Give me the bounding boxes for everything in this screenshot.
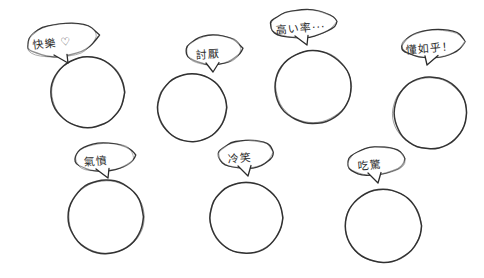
bubble-tail-sneer [238, 166, 251, 177]
face-circle-angry[interactable] [68, 180, 144, 254]
face-circle-surprised[interactable] [345, 189, 421, 262]
speech-bubble-whatever[interactable] [401, 27, 467, 60]
bubble-tail-surprised [368, 173, 381, 184]
speech-bubble-dislike[interactable] [185, 33, 243, 66]
drawing-canvas [0, 0, 484, 278]
speech-bubble-happy[interactable] [25, 19, 102, 61]
bubble-tail-expensive [295, 36, 308, 46]
face-circle-happy[interactable] [51, 57, 125, 128]
bubble-tail-happy [54, 55, 68, 64]
bubble-tail-whatever [425, 56, 438, 66]
face-circle-sneer[interactable] [210, 182, 283, 253]
speech-bubble-expensive[interactable] [270, 7, 338, 40]
speech-bubble-angry[interactable] [74, 141, 137, 174]
bubble-tail-angry [96, 169, 109, 179]
face-circle-expensive[interactable] [275, 50, 352, 123]
face-circle-dislike[interactable] [157, 74, 227, 142]
speech-bubble-sneer[interactable] [217, 138, 275, 170]
worksheet-sheet: 快樂 ♡討厭高い率···懂如乎！氣憤冷笑吃驚 [0, 0, 484, 278]
face-circle-whatever[interactable] [392, 77, 466, 149]
bubble-tail-dislike [206, 63, 219, 73]
